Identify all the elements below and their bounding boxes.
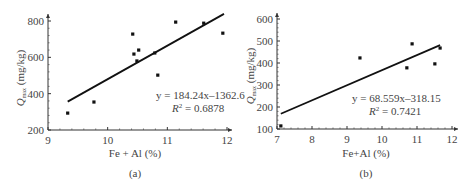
data-point bbox=[66, 112, 69, 115]
y-tick-label: 800 bbox=[28, 15, 45, 27]
data-point bbox=[358, 56, 361, 59]
x-tick-label: 10 bbox=[102, 134, 114, 146]
y-tick-label: 200 bbox=[28, 124, 45, 136]
data-point bbox=[433, 62, 436, 65]
y-axis-arrow-icon bbox=[46, 14, 50, 18]
x-tick-label: 8 bbox=[309, 133, 315, 145]
x-axis-label: Fe + Al (%) bbox=[109, 147, 162, 160]
y-axis-label: Qmax (mg/kg) bbox=[244, 47, 257, 104]
y-tick-label: 100 bbox=[257, 123, 274, 135]
x-tick-label: 12 bbox=[222, 134, 233, 146]
data-point bbox=[92, 100, 95, 103]
r-squared-label: R2 = 0.6878 bbox=[171, 102, 225, 114]
data-point bbox=[411, 42, 414, 45]
y-tick-label: 200 bbox=[257, 101, 274, 113]
data-point bbox=[132, 52, 135, 55]
data-point bbox=[137, 48, 140, 51]
data-point bbox=[202, 22, 205, 25]
y-tick-label: 500 bbox=[257, 35, 274, 47]
y-axis-arrow-icon bbox=[275, 13, 279, 17]
y-tick-label: 400 bbox=[28, 88, 45, 100]
data-point bbox=[153, 51, 156, 54]
panel-label: (a) bbox=[129, 167, 142, 180]
data-point bbox=[279, 124, 282, 127]
y-tick-label: 600 bbox=[28, 51, 45, 63]
panel-label: (b) bbox=[360, 167, 373, 180]
chart-panel-b: 789101112100200300400500600y = 68.559x–3… bbox=[244, 13, 458, 180]
data-point bbox=[131, 32, 134, 35]
data-point bbox=[174, 20, 177, 23]
data-point bbox=[439, 46, 442, 49]
y-tick-label: 600 bbox=[257, 13, 274, 25]
r-squared-label: R2 = 0.7421 bbox=[368, 105, 421, 117]
data-point bbox=[156, 74, 159, 77]
x-tick-label: 7 bbox=[274, 133, 280, 145]
y-tick-label: 300 bbox=[257, 79, 274, 91]
x-tick-label: 10 bbox=[377, 133, 389, 145]
x-tick-label: 12 bbox=[447, 133, 458, 145]
regression-equation: y = 68.559x–318.15 bbox=[352, 92, 441, 104]
chart-figure: 9101112200400600800y = 184.24x–1362.6R2 … bbox=[0, 0, 473, 186]
x-tick-label: 11 bbox=[162, 134, 173, 146]
y-axis-label: Qmax (mg/kg) bbox=[14, 49, 27, 106]
x-axis-label: Fe+Al (%) bbox=[342, 147, 390, 160]
x-tick-label: 9 bbox=[45, 134, 51, 146]
y-tick-label: 400 bbox=[257, 57, 274, 69]
data-point bbox=[135, 59, 138, 62]
data-point bbox=[221, 32, 224, 35]
x-axis-arrow-icon bbox=[454, 127, 458, 131]
x-tick-label: 11 bbox=[412, 133, 423, 145]
x-axis-arrow-icon bbox=[228, 128, 232, 132]
data-point bbox=[405, 66, 408, 69]
x-tick-label: 9 bbox=[344, 133, 350, 145]
chart-panel-a: 9101112200400600800y = 184.24x–1362.6R2 … bbox=[14, 14, 245, 180]
regression-equation: y = 184.24x–1362.6 bbox=[156, 89, 245, 101]
